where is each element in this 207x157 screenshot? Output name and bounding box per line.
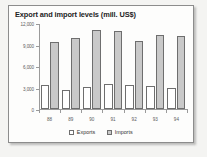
x-axis-tick-label: 94 xyxy=(174,117,179,122)
plot-area: 03,0006,0009,00012,000 88899091929394 xyxy=(39,24,187,110)
bar-imports-92 xyxy=(135,41,144,109)
x-axis-tick-mark xyxy=(81,109,82,113)
legend-item-imports[interactable]: Imports xyxy=(107,129,132,135)
x-axis-tick-mark xyxy=(166,109,167,113)
y-axis-tick-mark xyxy=(36,89,40,90)
bar-exports-94 xyxy=(167,88,176,110)
bar-imports-94 xyxy=(177,36,186,109)
x-axis-tick-mark xyxy=(102,109,103,113)
legend-label: Imports xyxy=(115,129,133,135)
x-axis-tick-label: 92 xyxy=(132,117,137,122)
bar-imports-88 xyxy=(50,42,59,109)
legend-item-exports[interactable]: Exports xyxy=(69,129,95,135)
y-axis-tick-label: 9,000 xyxy=(23,43,34,48)
bar-exports-93 xyxy=(146,86,155,109)
x-axis-tick-mark xyxy=(60,109,61,113)
x-axis-tick-label: 89 xyxy=(68,117,73,122)
chart-legend: ExportsImports xyxy=(9,129,193,135)
x-axis-tick-label: 93 xyxy=(153,117,158,122)
bar-imports-93 xyxy=(156,35,165,109)
legend-label: Exports xyxy=(77,129,95,135)
y-axis-tick-mark xyxy=(36,46,40,47)
exports-swatch xyxy=(69,130,74,135)
x-axis-tick-mark xyxy=(187,109,188,113)
x-axis-line xyxy=(39,109,187,110)
bar-exports-88 xyxy=(41,85,50,109)
x-axis-tick-mark xyxy=(145,109,146,113)
x-axis-tick-mark xyxy=(39,109,40,113)
bar-exports-90 xyxy=(83,87,92,109)
imports-swatch xyxy=(107,130,112,135)
y-axis-tick-label: 6,000 xyxy=(23,65,34,70)
x-axis-tick-label: 91 xyxy=(110,117,115,122)
x-axis-tick-mark xyxy=(124,109,125,113)
x-axis-tick-label: 90 xyxy=(89,117,94,122)
page-background: Export and import levels (mill. US$) 03,… xyxy=(0,0,207,157)
bar-exports-89 xyxy=(62,90,71,109)
y-axis-tick-label: 12,000 xyxy=(21,22,34,27)
y-axis-tick-mark xyxy=(36,67,40,68)
y-axis-tick-label: 0 xyxy=(32,108,34,113)
bar-exports-91 xyxy=(104,84,113,109)
x-axis-tick-label: 88 xyxy=(47,117,52,122)
chart-figure: Export and import levels (mill. US$) 03,… xyxy=(8,5,194,143)
bar-imports-91 xyxy=(114,31,123,109)
bar-imports-89 xyxy=(71,38,80,109)
bar-imports-90 xyxy=(92,30,101,109)
bar-exports-92 xyxy=(125,85,134,109)
page-title: Export and import levels (mill. US$) xyxy=(15,10,136,19)
y-axis-tick-label: 3,000 xyxy=(23,86,34,91)
y-axis-tick-mark xyxy=(36,24,40,25)
